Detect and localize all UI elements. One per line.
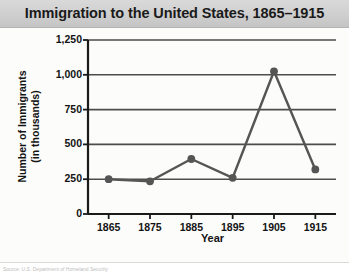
- data-point: [229, 174, 237, 182]
- x-tick-label: 1915: [293, 221, 337, 233]
- axis-ticks: [83, 40, 315, 219]
- data-point: [146, 177, 154, 185]
- source-caption: Source: U.S. Department of Homeland Secu…: [3, 266, 108, 272]
- y-tick-label: 1,250: [36, 33, 82, 45]
- caption-strip: Source: U.S. Department of Homeland Secu…: [0, 262, 349, 279]
- y-tick-label: 250: [36, 172, 82, 184]
- x-tick-label: 1895: [211, 221, 255, 233]
- y-tick-label: 0: [36, 207, 82, 219]
- data-point: [270, 67, 278, 75]
- gridlines: [88, 40, 336, 179]
- page-title: Immigration to the United States, 1865–1…: [0, 0, 349, 27]
- x-tick-label: 1875: [128, 221, 172, 233]
- data-line: [109, 71, 316, 181]
- x-tick-label: 1865: [87, 221, 131, 233]
- chart-canvas: [0, 28, 349, 279]
- plot-area: Number of Immigrants (in thousands) Year…: [0, 28, 349, 279]
- x-tick-label: 1905: [252, 221, 296, 233]
- y-tick-label: 500: [36, 137, 82, 149]
- chart-figure: Immigration to the United States, 1865–1…: [0, 0, 349, 279]
- data-point: [187, 155, 195, 163]
- y-tick-label: 1,000: [36, 68, 82, 80]
- data-point: [311, 166, 319, 174]
- y-tick-label: 750: [36, 103, 82, 115]
- x-tick-label: 1885: [169, 221, 213, 233]
- data-point: [105, 175, 113, 183]
- chart-title-bar: Immigration to the United States, 1865–1…: [0, 0, 349, 28]
